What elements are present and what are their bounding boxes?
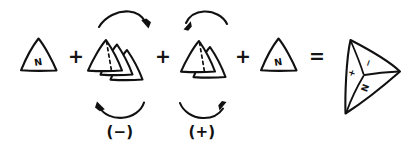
plus-operator-1: + [68, 45, 84, 67]
rotation-arrow-top-counterclockwise [184, 11, 228, 30]
rotation-sign-label-negative: (−) [107, 123, 134, 141]
term-single-triangle-right: N [261, 39, 297, 71]
arrow-arc [180, 103, 223, 118]
result-tetrahedron: + − N [345, 40, 400, 114]
term-single-triangle-left: N [21, 39, 57, 71]
equation-diagram: N + + (−) [0, 0, 412, 149]
arrow-head [184, 21, 192, 31]
plus-operator-2: + [155, 45, 171, 67]
equals-operator: = [309, 45, 325, 67]
arrow-arc [186, 11, 227, 24]
arrow-arc [99, 11, 146, 27]
rotation-arrow-bottom-counterclockwise [95, 102, 144, 118]
rotation-arrow-bottom-clockwise [180, 101, 227, 118]
arrow-arc [100, 103, 144, 118]
arrow-head [95, 102, 105, 112]
rotation-sign-label-positive: (+) [189, 123, 216, 141]
rotation-arrow-top-clockwise [99, 11, 151, 28]
plus-operator-3: + [235, 45, 251, 67]
arrow-head [141, 19, 151, 29]
term-triangle-stack-negative [88, 11, 151, 80]
diagram-canvas: N + + (−) [0, 0, 412, 149]
term-triangle-stack-positive [181, 11, 227, 77]
